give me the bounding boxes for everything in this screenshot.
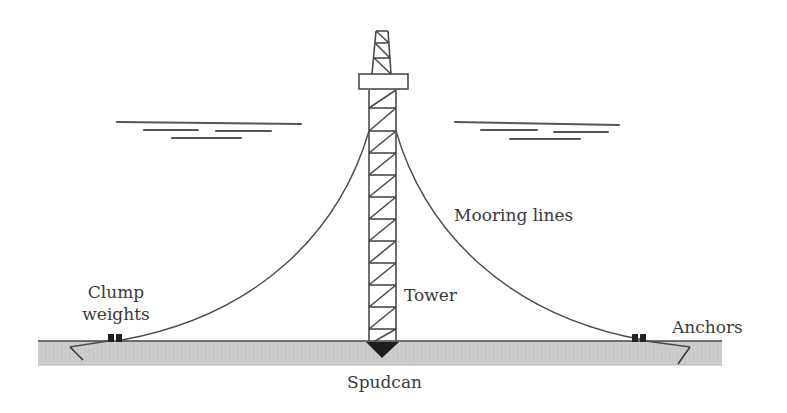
mooring-lines <box>70 131 690 347</box>
deck-icon <box>359 74 408 89</box>
sea-surface-left-icon <box>117 122 301 138</box>
label-mooring-lines: Mooring lines <box>454 205 573 225</box>
diagram-canvas: Mooring lines Tower Clump weights Anchor… <box>0 0 787 413</box>
sea-surface-right-icon <box>455 122 619 139</box>
diagram-svg <box>0 0 787 413</box>
tower-icon <box>369 90 396 341</box>
derrick-icon <box>372 31 391 74</box>
label-clump-weights-line2: weights <box>76 304 156 324</box>
label-clump-weights-line1: Clump <box>76 282 156 302</box>
label-spudcan: Spudcan <box>347 372 422 392</box>
label-tower: Tower <box>404 285 457 305</box>
label-clump-weights: Clump weights <box>76 282 156 324</box>
label-anchors: Anchors <box>672 317 743 337</box>
